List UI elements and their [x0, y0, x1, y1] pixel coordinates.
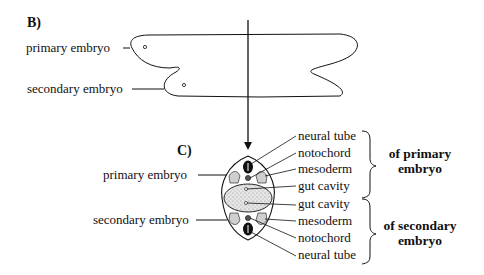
label-neural-tube-secondary: neural tube: [298, 248, 356, 262]
label-mesoderm-secondary: mesoderm: [298, 214, 352, 228]
label-notochord-secondary: notochord: [298, 231, 351, 245]
cross-section: [222, 156, 275, 240]
label-gut-cavity-primary: gut cavity: [298, 179, 350, 193]
label-primary-embryo-c: primary embryo: [103, 168, 187, 182]
group-secondary-line1: of secondary: [365, 218, 475, 233]
label-mesoderm-primary: mesoderm: [298, 162, 352, 176]
label-secondary-embryo-b: secondary embryo: [27, 82, 123, 96]
panel-label-b: B): [27, 15, 41, 31]
group-primary-line2: embryo: [365, 161, 475, 176]
group-label-primary: of primary embryo: [365, 146, 475, 176]
label-primary-embryo-b: primary embryo: [26, 41, 110, 55]
primary-eye-spot: [143, 45, 146, 48]
group-secondary-line2: embryo: [365, 233, 475, 248]
label-neural-tube-primary: neural tube: [298, 129, 356, 143]
label-secondary-embryo-c: secondary embryo: [93, 213, 189, 227]
group-label-secondary: of secondary embryo: [365, 218, 475, 248]
label-notochord-primary: notochord: [298, 146, 351, 160]
arrow-head-icon: [244, 142, 252, 150]
secondary-eye-spot: [182, 83, 185, 86]
group-primary-line1: of primary: [365, 146, 475, 161]
label-gut-cavity-secondary: gut cavity: [298, 197, 350, 211]
panel-label-c: C): [177, 143, 192, 159]
twin-embryo-outline: [131, 34, 358, 97]
